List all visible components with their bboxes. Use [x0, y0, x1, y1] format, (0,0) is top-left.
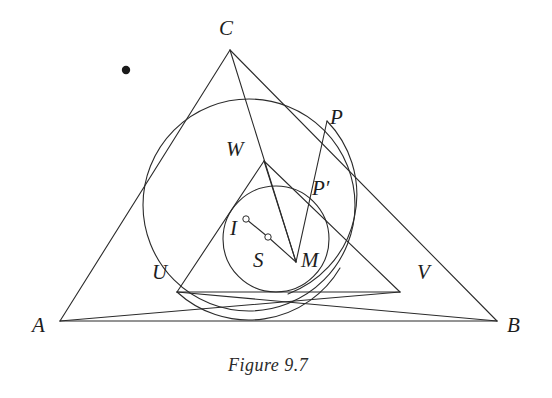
figure-caption: Figure 9.7: [228, 355, 308, 376]
segment-I-to-S: [246, 219, 268, 237]
point-label-v: V: [417, 262, 430, 283]
arc-through-P-M: [288, 121, 357, 294]
point-label-i: I: [230, 218, 237, 239]
point-label-p: P: [330, 107, 343, 128]
point-label-u: U: [152, 262, 167, 283]
point-label-a: A: [32, 315, 45, 336]
point-label-w: W: [226, 139, 244, 160]
side-BC: [230, 50, 497, 321]
point-label-c: C: [219, 18, 233, 39]
center-marker-s: [265, 234, 271, 240]
point-label-pprime: P′: [312, 178, 329, 199]
center-marker-i: [243, 216, 249, 222]
geometry-canvas: [0, 0, 552, 398]
point-label-s: S: [253, 250, 264, 271]
inner-circle: [223, 186, 329, 292]
figure-container: ABCUVWMPP′IS Figure 9.7: [0, 0, 552, 398]
segment-U-to-W: [177, 161, 264, 292]
incircle: [143, 99, 355, 311]
point-label-m: M: [301, 250, 319, 271]
point-label-b: B: [507, 315, 520, 336]
stray-dot: [122, 66, 130, 74]
